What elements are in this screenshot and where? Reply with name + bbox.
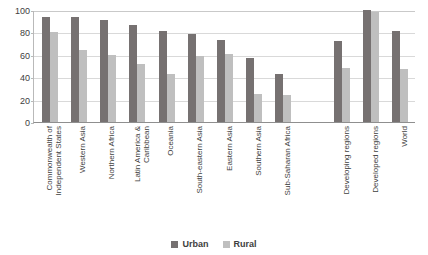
bar-rural [342, 68, 350, 122]
x-axis-label: Sub-Saharan Africa [283, 126, 292, 195]
x-axis-label-cell: Eastern Asia [210, 124, 239, 222]
y-axis-tick-mark [31, 33, 34, 34]
legend-label: Urban [182, 239, 208, 249]
x-axis-label-cell [298, 124, 327, 222]
bar-urban [188, 34, 196, 122]
x-axis-label: Northern Africa [107, 126, 116, 179]
x-axis-label-line: Latin America & [132, 126, 141, 182]
x-axis-label-cell: South-eastern Asia [181, 124, 210, 222]
bar-rural [196, 56, 204, 122]
legend-label: Rural [234, 239, 257, 249]
bar-urban [246, 58, 254, 122]
bar-group [93, 11, 122, 122]
x-axis-label-cell: Developing regions [327, 124, 356, 222]
x-axis-label-cell: World [386, 124, 415, 222]
x-axis-label-line: Sub-Saharan Africa [283, 126, 292, 195]
bar-urban [42, 17, 50, 122]
x-axis-label: World [400, 126, 409, 147]
bar-rural [108, 55, 116, 122]
bar-urban [392, 31, 400, 122]
x-axis-label-cell: Developed regions [356, 124, 385, 222]
x-axis-label-line: Commonwealth of [44, 126, 53, 190]
bar-group [298, 11, 327, 122]
x-axis-label-line: South-eastern Asia [195, 126, 204, 194]
bar-urban [275, 74, 283, 122]
x-axis-label: Developed regions [371, 126, 380, 193]
plot-area: 020406080100 [33, 11, 415, 123]
bar-group [123, 11, 152, 122]
x-axis-label-cell: Oceania [151, 124, 180, 222]
y-axis-tick-label: 100 [15, 7, 30, 16]
bar-urban [71, 17, 79, 122]
x-axis-label-cell: Sub-Saharan Africa [269, 124, 298, 222]
bar-group [357, 11, 386, 122]
x-axis-label-line: Southern Asia [254, 126, 263, 176]
legend-item[interactable]: Urban [171, 239, 208, 249]
x-axis-labels: Commonwealth ofIndependent StatesWestern… [34, 124, 415, 222]
bar-rural [283, 95, 291, 122]
legend-item[interactable]: Rural [223, 239, 257, 249]
bar-rural [254, 94, 262, 122]
legend-swatch-icon [223, 241, 230, 248]
bar-group [64, 11, 93, 122]
x-axis-label-line: Caribbean [141, 126, 150, 182]
bar-urban [100, 20, 108, 122]
bar-urban [129, 25, 137, 122]
x-axis-label: Oceania [166, 126, 175, 156]
y-axis-tick-label: 80 [20, 29, 30, 38]
legend-swatch-icon [171, 241, 178, 248]
bar-groups [35, 11, 415, 122]
x-axis-label: South-eastern Asia [195, 126, 204, 194]
bar-rural [225, 54, 233, 122]
bar-urban [159, 31, 167, 122]
x-axis-label-cell: Commonwealth ofIndependent States [34, 124, 63, 222]
bar-rural [167, 74, 175, 122]
bar-group [327, 11, 356, 122]
chart-legend: UrbanRural [0, 239, 428, 249]
x-axis-label: Developing regions [342, 126, 351, 195]
bar-chart: 020406080100 Commonwealth ofIndependent … [0, 0, 428, 255]
y-axis-tick-label: 60 [20, 51, 30, 60]
bar-rural [137, 64, 145, 122]
y-axis-tick-mark [31, 56, 34, 57]
x-axis-label-line: Eastern Asia [225, 126, 234, 171]
x-axis-label-line: Developing regions [342, 126, 351, 195]
bar-group [181, 11, 210, 122]
x-axis-label-cell: Southern Asia [239, 124, 268, 222]
bar-rural [50, 32, 58, 122]
bar-group [386, 11, 415, 122]
bar-urban [334, 41, 342, 122]
bar-group [240, 11, 269, 122]
bar-rural [79, 50, 87, 122]
x-axis-label-cell: Northern Africa [93, 124, 122, 222]
x-axis-label: Latin America &Caribbean [132, 126, 150, 182]
bar-rural [371, 12, 379, 122]
y-axis-tick-label: 20 [20, 96, 30, 105]
bar-group [210, 11, 239, 122]
x-axis-label-cell: Western Asia [63, 124, 92, 222]
x-axis-label: Western Asia [78, 126, 87, 173]
x-axis-label-line: Northern Africa [107, 126, 116, 179]
x-axis-label: Southern Asia [254, 126, 263, 176]
y-axis-tick-label: 0 [25, 119, 30, 128]
x-axis-label-line: Western Asia [78, 126, 87, 173]
bar-urban [217, 40, 225, 122]
bar-urban [363, 10, 371, 122]
y-axis-tick-mark [31, 78, 34, 79]
bar-rural [400, 69, 408, 122]
x-axis-label-line: Oceania [166, 126, 175, 156]
x-axis-label: Commonwealth ofIndependent States [44, 126, 62, 195]
y-axis-tick-mark [31, 101, 34, 102]
bar-group [35, 11, 64, 122]
x-axis-label-line: World [400, 126, 409, 147]
bar-group [269, 11, 298, 122]
y-axis-tick-mark [31, 11, 34, 12]
x-axis-label-line: Independent States [53, 126, 62, 195]
bar-group [152, 11, 181, 122]
x-axis-label-cell: Latin America &Caribbean [122, 124, 151, 222]
y-axis-tick-label: 40 [20, 74, 30, 83]
x-axis-label-line: Developed regions [371, 126, 380, 193]
x-axis-label: Eastern Asia [225, 126, 234, 171]
